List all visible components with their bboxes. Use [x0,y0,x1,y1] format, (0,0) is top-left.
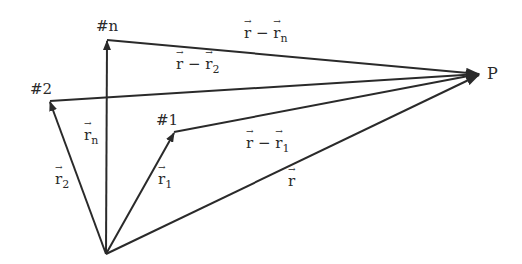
subscript: 2 [62,178,69,191]
label-r-minus-r2: r − r2 [176,57,219,72]
vec-r: r [288,174,295,189]
vec-r: r [244,26,251,41]
vector-r-1 [106,133,174,254]
node-label-n: #n [96,19,118,34]
label-r-minus-r1: r − r1 [246,136,289,151]
subscript: 2 [212,63,219,76]
minus-sign: − [253,134,275,152]
vec-r: r [176,57,183,72]
node-label-p: P [487,66,498,82]
vector-r-n [106,41,107,254]
node-label-2: #2 [30,82,52,97]
subscript: 1 [282,142,289,155]
subscript: n [280,32,287,45]
minus-sign: − [251,24,273,42]
label-r-n: rn [84,128,98,143]
node-label-1: #1 [156,113,178,128]
subscript: n [91,134,98,147]
subscript: 1 [165,178,172,191]
vector-r-minus-rn [107,40,479,74]
minus-sign: − [183,55,205,73]
vector-r-minus-r2 [50,74,479,101]
label-r-2: r2 [55,172,69,187]
diagram-canvas: #n #2 #1 P rn r2 r1 r r − rn r − r2 r − … [0,0,522,264]
label-r: r [288,174,295,189]
vec-r: r [246,136,253,151]
label-r-1: r1 [158,172,172,187]
label-r-minus-rn: r − rn [244,26,288,41]
